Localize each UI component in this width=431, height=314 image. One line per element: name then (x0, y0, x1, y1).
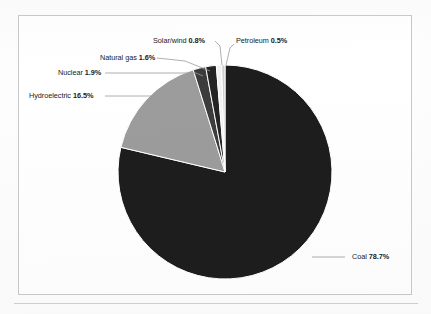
pie-label-value: 1.9% (85, 68, 101, 77)
pie-slice-group (118, 65, 332, 279)
pie-label-petroleum: Petroleum 0.5% (236, 36, 287, 45)
pie-chart (0, 0, 431, 314)
pie-label-category: Hydroelectric (29, 91, 71, 100)
pie-label-category: Solar/wind (153, 36, 187, 45)
bottom-divider (14, 303, 418, 304)
pie-label-natural-gas: Natural gas 1.6% (100, 53, 155, 62)
pie-label-value: 0.8% (189, 36, 205, 45)
pie-label-category: Natural gas (100, 53, 137, 62)
pie-label-hydroelectric: Hydroelectric 16.5% (29, 91, 93, 100)
pie-label-coal: Coal 78.7% (352, 252, 389, 261)
leader-line-petroleum (226, 44, 234, 65)
pie-label-nuclear: Nuclear 1.9% (58, 68, 101, 77)
chart-page: Coal 78.7%Hydroelectric 16.5%Nuclear 1.9… (0, 0, 431, 314)
pie-label-category: Coal (352, 252, 367, 261)
leader-line-solar-wind (215, 41, 222, 65)
pie-label-category: Nuclear (58, 68, 83, 77)
pie-label-value: 0.5% (271, 36, 287, 45)
pie-label-value: 78.7% (369, 252, 389, 261)
pie-label-category: Petroleum (236, 36, 269, 45)
pie-label-value: 16.5% (73, 91, 93, 100)
pie-label-value: 1.6% (139, 53, 155, 62)
pie-label-solar-wind: Solar/wind 0.8% (153, 36, 205, 45)
